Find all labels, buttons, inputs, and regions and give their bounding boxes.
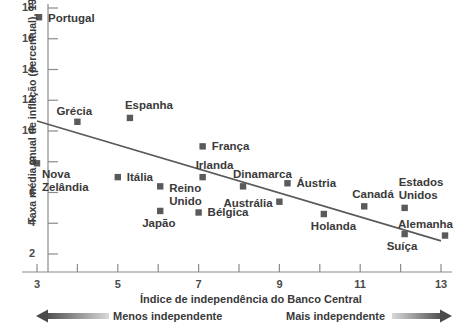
x-tick-label: 3 [34, 278, 40, 290]
right-arrow-shaft [392, 313, 444, 319]
data-point-label: EstadosUnidos [399, 176, 444, 202]
more-independent-label: Mais independente [286, 310, 385, 322]
left-arrow-head [36, 310, 48, 323]
x-tick-label: 9 [276, 278, 282, 290]
data-point-marker [157, 208, 163, 214]
left-arrow-shaft [44, 313, 109, 319]
data-point-marker [74, 119, 80, 125]
chart-container: 24681012141618 35791113 PortugalNovaZelâ… [0, 0, 458, 332]
data-point-marker [115, 174, 121, 180]
data-point-marker [276, 199, 282, 205]
data-point-label: Itália [127, 171, 153, 184]
data-point-label: Irlanda [196, 159, 234, 172]
data-point-marker [157, 183, 163, 189]
data-point-marker [401, 205, 407, 211]
data-point-marker [195, 209, 201, 215]
data-point-label: Suíça [387, 240, 418, 253]
data-point-marker [442, 232, 448, 238]
data-point-label: Japão [142, 217, 175, 230]
y-tick-label: 2 [29, 247, 35, 259]
data-point-label: França [212, 140, 250, 153]
data-point-marker [199, 143, 205, 149]
x-tick-label: 13 [435, 278, 447, 290]
data-point-label: ReinoUnido [169, 182, 202, 208]
trendline [37, 121, 441, 241]
data-point-label: Dinamarca [233, 168, 292, 181]
data-point-label: Grécia [56, 105, 92, 118]
data-point-label: Áustria [296, 177, 336, 190]
x-axis-title: Índice de independência do Banco Central [140, 293, 362, 305]
data-point-marker [284, 180, 290, 186]
data-point-marker [240, 183, 246, 189]
data-point-marker [401, 231, 407, 237]
right-arrow-head [440, 310, 452, 323]
x-tick-label: 5 [115, 278, 121, 290]
direction-arrows [36, 310, 452, 323]
data-point-label: Alemanha [398, 218, 453, 231]
data-point-label: Espanha [125, 99, 173, 112]
data-point-marker [321, 211, 327, 217]
trendline-segment [37, 121, 441, 241]
axes-group [22, 4, 452, 272]
data-point-label: Canadá [352, 188, 394, 201]
data-point-label: Austrália [223, 197, 272, 210]
x-tick-label: 7 [196, 278, 202, 290]
y-axis-title: Taxa média anual de inflação (percentual… [26, 44, 38, 224]
data-point-label: Holanda [311, 220, 356, 233]
data-point-marker [361, 203, 367, 209]
data-point-label: Portugal [48, 12, 95, 25]
data-point-marker [199, 174, 205, 180]
x-tick-label: 11 [354, 278, 366, 290]
data-point-label: NovaZelândia [42, 168, 89, 194]
less-independent-label: Menos independente [113, 310, 222, 322]
data-point-marker [127, 115, 133, 121]
